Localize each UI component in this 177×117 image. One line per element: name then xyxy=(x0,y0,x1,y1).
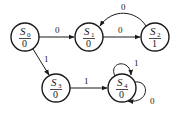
edge-label-s4-loop-1: 1 xyxy=(134,58,139,68)
svg-text:S: S xyxy=(117,76,123,88)
edge-s2-s1 xyxy=(100,13,146,26)
svg-text:0: 0 xyxy=(22,38,27,49)
svg-text:1: 1 xyxy=(152,38,157,49)
svg-text:S: S xyxy=(20,25,26,37)
svg-text:S: S xyxy=(84,25,90,37)
edge-label-s0-s3: 1 xyxy=(44,54,49,64)
svg-text:2: 2 xyxy=(157,31,161,39)
svg-text:4: 4 xyxy=(124,82,128,90)
state-s2: S 2 1 xyxy=(141,23,169,51)
state-s1: S 1 0 xyxy=(75,23,103,51)
svg-text:0: 0 xyxy=(53,89,58,100)
svg-text:S: S xyxy=(51,76,57,88)
edge-label-s2-s1: 0 xyxy=(121,2,126,12)
state-s0: S 0 0 xyxy=(11,23,39,51)
edge-label-s4-loop-0: 0 xyxy=(150,96,155,106)
svg-text:1: 1 xyxy=(91,31,95,39)
edge-label-s0-s1: 0 xyxy=(55,25,60,35)
svg-text:S: S xyxy=(150,25,156,37)
state-s4: S 4 0 xyxy=(108,74,136,102)
svg-text:0: 0 xyxy=(119,89,124,100)
edge-label-s1-s2: 0 xyxy=(118,25,123,35)
state-s3: S 3 0 xyxy=(42,74,70,102)
svg-text:3: 3 xyxy=(58,82,62,90)
state-diagram: 0 0 0 1 1 1 0 S 0 0 S 1 0 S 2 1 S xyxy=(0,0,177,117)
edge-label-s3-s4: 1 xyxy=(84,76,89,86)
svg-text:0: 0 xyxy=(27,31,31,39)
svg-text:0: 0 xyxy=(86,38,91,49)
